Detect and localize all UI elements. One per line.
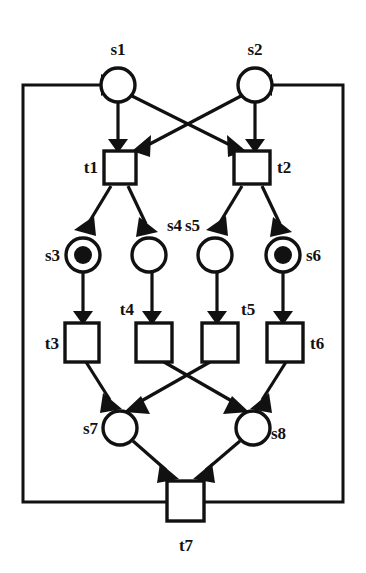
transition-t5-label: t5 (241, 300, 255, 319)
arrowhead-t2-s5 (206, 216, 228, 236)
arc-t2-s6 (262, 186, 292, 237)
place-s1[interactable]: s1 (101, 40, 135, 102)
transition-t7[interactable]: t7 (167, 481, 204, 555)
transition-t6-label: t6 (310, 334, 324, 353)
transition-t3-label: t3 (45, 334, 59, 353)
place-s3[interactable]: s3 (45, 238, 100, 272)
transition-t2[interactable]: t2 (234, 151, 291, 184)
arc-t3-s7 (86, 362, 122, 413)
place-s8[interactable]: s8 (236, 411, 286, 445)
arc-s7-t7 (133, 441, 179, 483)
arc-s6-t6 (273, 272, 293, 325)
place-s6-label: s6 (306, 246, 321, 265)
transition-t4-label: t4 (120, 300, 135, 319)
token-s3 (74, 246, 92, 264)
place-s1-label: s1 (110, 40, 125, 59)
token-s6 (274, 246, 292, 264)
transition-t6[interactable]: t6 (267, 323, 324, 362)
arc-s3-t3 (73, 272, 93, 325)
transition-t4[interactable]: t4 (120, 300, 172, 362)
arc-t6-s8 (250, 362, 286, 413)
arc-t1-s4 (128, 186, 158, 237)
arc-s1-t1 (108, 102, 128, 153)
arc-s5-t5 (207, 272, 227, 325)
transition-t3[interactable]: t3 (45, 323, 99, 362)
place-s2-label: s2 (247, 40, 262, 59)
place-s7[interactable]: s7 (83, 411, 137, 445)
arc-t1-s3 (74, 186, 111, 236)
arc-s2-t2 (245, 102, 265, 153)
arc-t5-s7 (124, 362, 210, 414)
place-s2[interactable]: s2 (238, 40, 272, 102)
arc-t4-s8 (164, 362, 249, 414)
arrowhead-t2-s6 (270, 217, 292, 237)
arrowhead-t1-s3 (74, 216, 96, 236)
arrowhead-t1-s4 (136, 217, 158, 237)
transition-t1[interactable]: t1 (84, 151, 136, 184)
place-s3-label: s3 (45, 246, 60, 265)
transition-t1-label: t1 (84, 158, 98, 177)
place-s8-label: s8 (271, 424, 286, 443)
arc-s4-t4 (142, 272, 162, 325)
transition-t5[interactable]: t5 (202, 300, 255, 362)
arc-s8-t7 (193, 441, 240, 483)
arc-t2-s5 (206, 186, 242, 236)
transition-t2-label: t2 (277, 158, 291, 177)
petri-net-canvas: t1 t2 t3 t4 t5 t6 t7 s1 (0, 0, 366, 573)
petri-net-diagram: t1 t2 t3 t4 t5 t6 t7 s1 (0, 0, 366, 573)
transition-t7-label: t7 (179, 536, 194, 555)
place-s6[interactable]: s6 (266, 238, 321, 272)
place-s7-label: s7 (83, 419, 99, 438)
place-s5-label: s5 (185, 216, 200, 235)
place-s4-label: s4 (167, 216, 183, 235)
